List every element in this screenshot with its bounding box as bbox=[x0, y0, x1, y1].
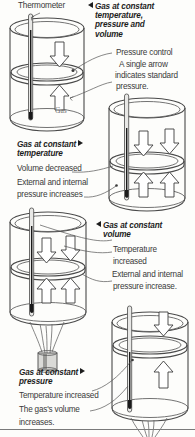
marker-right-icon bbox=[80, 368, 85, 374]
annotation-ext-int-pressure-2: External and internal bbox=[112, 270, 183, 279]
caption-constant-pressure: Gas at constant pressure bbox=[19, 368, 123, 386]
caption-heading-line: temperature, bbox=[88, 11, 194, 20]
leader-single-arrow bbox=[70, 82, 112, 98]
caption-heading-line: Gas at constant bbox=[17, 140, 76, 149]
caption-heading-line: volume bbox=[96, 230, 195, 239]
gas-label-text: Gas bbox=[55, 106, 67, 115]
bottom-divider bbox=[0, 429, 195, 430]
annotation-single-arrow-line1: A single arrow bbox=[119, 60, 168, 69]
annotation-pressure-increase: pressure increase. bbox=[113, 282, 177, 291]
marker-left-icon bbox=[88, 2, 93, 8]
annotation-pressure-control: Pressure control bbox=[116, 48, 172, 57]
caption-constant-volume: Gas at constant volume bbox=[96, 221, 195, 239]
cylinder-1: Gas bbox=[10, 14, 84, 131]
caption-constant-tpv: Gas at constant temperature, pressure an… bbox=[88, 2, 194, 39]
marker-right-icon bbox=[78, 140, 83, 146]
leader-pressure-increases bbox=[84, 186, 116, 197]
marker-left-icon bbox=[96, 221, 101, 227]
leader-pressure-control bbox=[74, 53, 112, 70]
annotation-increases: increases. bbox=[19, 418, 54, 427]
caption-heading-line: pressure and bbox=[88, 20, 194, 29]
caption-heading-line: temperature bbox=[17, 149, 109, 158]
arrow-up-3b bbox=[61, 278, 80, 303]
annotation-single-arrow-line2: indicates standard bbox=[115, 71, 178, 80]
caption-heading-line: pressure bbox=[19, 377, 123, 386]
arrow-up-2a bbox=[134, 172, 153, 197]
caption-heading-line: Gas at constant bbox=[103, 221, 162, 230]
arrow-down-3b bbox=[61, 236, 80, 261]
arrow-down-2b bbox=[160, 129, 179, 154]
arrow-up-4 bbox=[154, 361, 173, 388]
annotation-ext-int-pressure-1: External and internal bbox=[17, 178, 88, 187]
arrow-up-3a bbox=[37, 278, 56, 303]
annotation-gas-volume: The gas's volume bbox=[19, 405, 80, 414]
annotation-single-arrow-line3: pressure. bbox=[116, 82, 148, 91]
illustration-stage: Gas bbox=[0, 0, 195, 437]
flame-3 bbox=[30, 322, 64, 353]
annotation-temperature-increased: Temperature increased bbox=[19, 391, 99, 400]
annotation-volume-decreased: Volume decreased bbox=[17, 164, 82, 173]
caption-heading-line: Gas at constant bbox=[19, 368, 78, 377]
cylinder-4 bbox=[112, 306, 188, 437]
caption-constant-temperature: Gas at constant temperature bbox=[17, 140, 109, 158]
annotation-temperature: Temperature bbox=[113, 245, 157, 254]
arrow-up-2b bbox=[160, 172, 179, 197]
annotation-increased: increased bbox=[113, 257, 147, 266]
cylinder-3 bbox=[10, 208, 86, 372]
cylinder-2 bbox=[109, 94, 185, 211]
thermometer-label: Thermometer bbox=[18, 1, 65, 10]
annotation-pressure-increases: pressure increases bbox=[17, 190, 83, 199]
caption-heading-line: Gas at constant bbox=[95, 2, 154, 11]
arrow-down-3a bbox=[37, 238, 56, 263]
caption-heading-line: volume bbox=[88, 30, 194, 39]
